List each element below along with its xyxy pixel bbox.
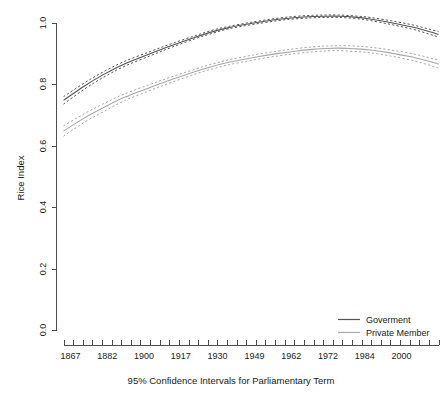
x-tick-label: 1972 [318, 351, 338, 361]
x-tick-label: 1867 [60, 351, 80, 361]
y-tick-label: 0.4 [38, 201, 48, 214]
legend-label-government: Goverment [366, 315, 411, 325]
y-tick-label: 0.6 [38, 140, 48, 153]
legend-label-private-member: Private Member [366, 328, 430, 338]
x-tick-label: 1949 [244, 351, 264, 361]
x-tick-label: 1984 [355, 351, 375, 361]
x-tick-label: 1882 [97, 351, 117, 361]
y-tick-label: 1.0 [38, 17, 48, 30]
y-tick-label: 0.2 [38, 263, 48, 276]
x-tick-label: 1930 [208, 351, 228, 361]
x-tick-label: 1900 [134, 351, 154, 361]
x-tick-label: 2000 [391, 351, 411, 361]
rice-index-line-chart: 0.0 0.2 0.4 0.6 0.8 1.0 Rice Index 18671… [0, 0, 444, 407]
x-axis-title: 95% Confidence Intervals for Parliamenta… [128, 375, 335, 386]
y-tick-label: 0.0 [38, 324, 48, 337]
x-tick-label: 1917 [171, 351, 191, 361]
y-tick-label: 0.8 [38, 78, 48, 91]
y-axis-title: Rice Index [15, 155, 26, 200]
x-tick-label: 1962 [281, 351, 301, 361]
chart-canvas: 0.0 0.2 0.4 0.6 0.8 1.0 Rice Index 18671… [0, 0, 444, 407]
